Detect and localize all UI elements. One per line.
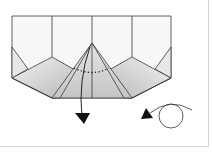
origami-diagram [0,0,212,152]
arrowhead-icon [75,113,90,124]
turn-over-arrowhead-icon [141,108,153,119]
paper-model [12,16,171,98]
turn-over-circle-icon [159,104,183,128]
turn-over-symbol [141,104,192,128]
